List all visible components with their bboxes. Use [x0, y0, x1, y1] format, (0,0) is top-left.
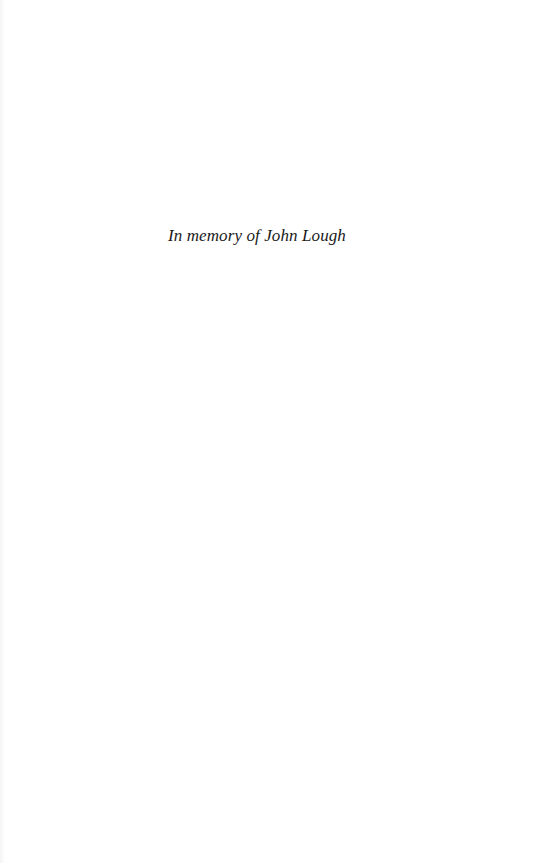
book-page: In memory of John Lough — [0, 0, 536, 863]
page-edge — [0, 0, 5, 863]
dedication-text: In memory of John Lough — [168, 226, 346, 246]
